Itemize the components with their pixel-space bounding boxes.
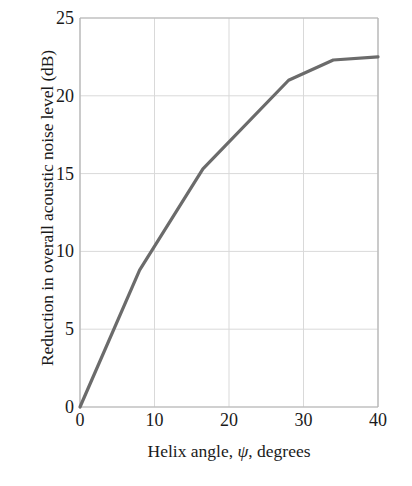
chart-figure: Reduction in overall acoustic noise leve…	[0, 0, 412, 486]
x-axis-title: Helix angle, ψ, degrees	[80, 441, 378, 462]
x-axis-title-prefix: Helix angle,	[148, 441, 238, 461]
x-tick-label: 40	[369, 411, 387, 429]
gridlines	[80, 18, 378, 407]
x-tick-label: 10	[146, 411, 164, 429]
x-axis-title-suffix: , degrees	[248, 441, 310, 461]
psi-symbol: ψ	[237, 441, 248, 461]
x-tick-label: 30	[295, 411, 313, 429]
x-tick-label: 0	[76, 411, 85, 429]
x-tick-label: 20	[220, 411, 238, 429]
x-axis-tick-labels: 010203040	[0, 411, 412, 439]
